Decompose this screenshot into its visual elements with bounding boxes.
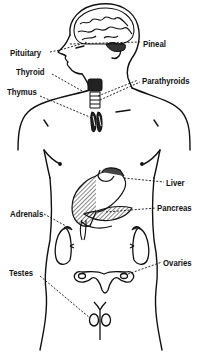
thyroid-gland [88,79,102,108]
brain-icon [74,8,134,44]
label-parathyroids: Parathyroids [142,76,190,86]
label-ovaries: Ovaries [163,258,192,268]
uterus-ovaries [74,272,133,294]
label-adrenals: Adrenals [10,209,43,219]
shoulder-left [18,90,90,150]
label-pancreas: Pancreas [157,203,192,213]
thymus-gland [91,112,102,132]
torso-left [40,178,52,350]
label-pineal: Pineal [143,39,166,49]
kidneys [55,227,148,265]
label-testes: Testes [9,268,33,278]
leader-thymus [40,96,92,118]
label-thymus: Thymus [7,87,37,97]
label-liver: Liver [166,178,185,188]
endocrine-diagram: Pituitary Pineal Thyroid Parathyroids Th… [0,0,204,358]
label-pituitary: Pituitary [10,48,41,58]
testes-organ [90,302,111,340]
label-thyroid: Thyroid [16,67,45,77]
leader-parathyroids-2 [100,82,140,100]
cerebellum [106,44,126,52]
eye [76,46,84,48]
leader-thyroid [52,74,84,92]
leader-adrenals [44,214,66,226]
shoulder-right [132,88,190,150]
leader-liver [124,178,164,182]
